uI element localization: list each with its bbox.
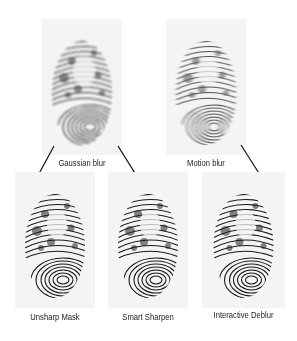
fingerprint-icon [42,19,122,155]
smart-sharpen-image [108,172,188,308]
unsharp-mask-image [15,172,95,308]
unsharp-mask-label: Unsharp Mask [21,312,89,322]
fingerprint-icon [108,172,188,308]
interactive-deblur-label: Interactive Deblur [204,310,283,320]
motion-blur-label: Motion blur [172,158,240,168]
gaussian-blur-image [42,19,122,155]
fingerprint-icon [15,172,95,308]
smart-sharpen-label: Smart Sharpen [114,312,182,322]
fingerprint-icon [166,19,246,155]
interactive-deblur-image [202,172,285,308]
motion-blur-image [166,19,246,155]
fingerprint-icon [202,172,285,308]
gaussian-blur-label: Gaussian blur [48,158,116,168]
